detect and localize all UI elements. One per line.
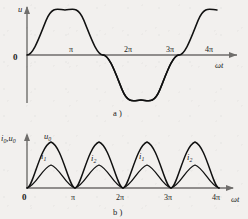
panel-a-caption: a ) <box>113 108 122 118</box>
figure-svg: u 0 π 2π 3π 4π ωt a ) i0,u0 <box>0 0 248 219</box>
panel-b-tick-pi: π <box>71 193 75 202</box>
panel-b: i0,u0 u0 i1 i2 i1 i2 0 π 2π 3π 4π <box>1 131 240 217</box>
panel-b-label-i2-second: i2 <box>187 152 192 163</box>
panel-a-origin-label: 0 <box>13 52 18 62</box>
panel-a-y-axis-arrow <box>24 6 30 14</box>
panel-b-x-axis-arrow <box>226 185 234 191</box>
panel-b-y-label: i0,u0 <box>1 133 16 144</box>
panel-a-tick-pi: π <box>69 45 73 54</box>
panel-b-y-label-u-sub: 0 <box>13 138 16 144</box>
panel-b-tick-3pi: 3π <box>164 193 172 202</box>
panel-a-tick-4pi: 4π <box>205 45 213 54</box>
panel-b-origin-label: 0 <box>22 192 27 202</box>
panel-a: u 0 π 2π 3π 4π ωt a ) <box>13 4 237 118</box>
panel-b-y-axis-arrow <box>24 133 30 141</box>
panel-b-i-curve <box>27 165 219 188</box>
panel-a-x-axis-arrow <box>229 52 237 58</box>
panel-a-x-label: ωt <box>215 60 224 70</box>
panel-b-label-i2-first: i2 <box>91 153 96 164</box>
figure-container: u 0 π 2π 3π 4π ωt a ) i0,u0 <box>0 0 248 219</box>
panel-a-tick-3pi: 3π <box>166 45 174 54</box>
panel-b-caption: b ) <box>113 207 122 217</box>
panel-a-y-label: u <box>18 4 22 14</box>
panel-b-x-label: ωt <box>231 194 240 204</box>
panel-b-label-i1-first: i1 <box>41 151 46 162</box>
panel-b-label-u0: u0 <box>44 131 51 142</box>
panel-b-label-i1-second: i1 <box>139 151 144 162</box>
panel-b-tick-4pi: 4π <box>212 193 220 202</box>
panel-a-tick-2pi: 2π <box>124 45 132 54</box>
panel-b-u0-curve <box>27 142 219 188</box>
panel-b-tick-2pi: 2π <box>116 193 124 202</box>
